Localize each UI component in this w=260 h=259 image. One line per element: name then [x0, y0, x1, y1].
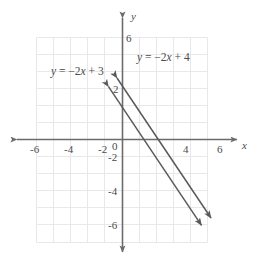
equation-label-left: y = −2x + 3	[51, 66, 104, 78]
y-tick-label-2: 2	[113, 84, 119, 95]
x-tick-label-6: 6	[217, 144, 223, 155]
graph-figure: -6 -4 -2 0 4 6 6 2 -2 -4 -6 y x y = −2x …	[0, 0, 260, 259]
x-axis-label: x	[242, 140, 247, 151]
y-tick-label-neg6: -6	[108, 220, 117, 231]
x-tick-label-neg2: -2	[98, 144, 107, 155]
line-y-eq-neg2x-plus-4[interactable]	[117, 78, 211, 218]
y-tick-label-6: 6	[126, 33, 132, 44]
equation-label-right: y = −2x + 4	[137, 52, 190, 64]
x-tick-label-neg4: -4	[64, 144, 73, 155]
y-axis-label: y	[131, 11, 136, 22]
eq-right-op: = −2	[142, 51, 166, 63]
eq-left-op: = −2	[56, 65, 80, 77]
y-tick-label-neg4: -4	[108, 186, 117, 197]
eq-left-tail: + 3	[86, 65, 104, 77]
x-tick-label-neg6: -6	[30, 144, 39, 155]
x-tick-label-4: 4	[183, 144, 189, 155]
y-tick-label-neg2: -2	[108, 152, 117, 163]
eq-right-tail: + 4	[172, 51, 190, 63]
